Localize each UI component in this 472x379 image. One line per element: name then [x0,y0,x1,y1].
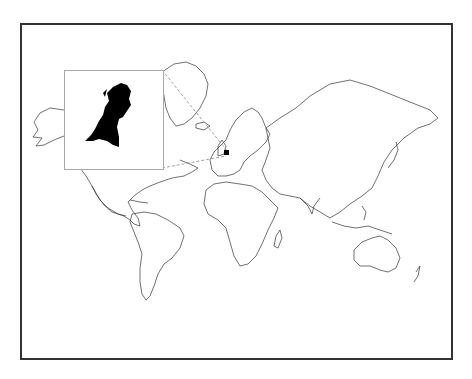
new-zealand-outline [414,266,420,282]
australia-outline [354,236,400,272]
caribbean-islands [130,200,148,203]
madagascar-outline [274,230,282,248]
world-map [0,0,472,379]
netherlands-silhouette-icon [65,71,163,169]
africa-outline [204,182,278,266]
central-america-outline [92,186,126,216]
asia-outline [262,80,438,218]
netherlands-marker [224,150,229,155]
iceland-outline [196,122,210,130]
alaska-outline [33,108,64,146]
indonesia-outline [332,222,392,234]
europe-outline [210,108,270,176]
netherlands-inset [64,70,164,170]
philippines-outline [362,206,366,220]
leader-line-top [162,70,228,152]
greenland-outline [162,62,208,126]
